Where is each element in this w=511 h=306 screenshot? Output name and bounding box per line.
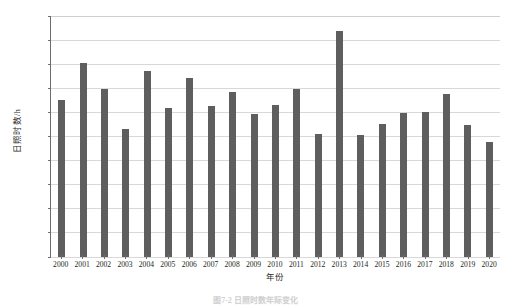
bar-slot (201, 16, 222, 257)
x-tick-label: 2008 (221, 259, 242, 271)
x-tick-slot: 2010 (264, 259, 285, 273)
bar[interactable] (315, 134, 322, 257)
x-tick-slot: 2005 (157, 259, 178, 273)
bar[interactable] (464, 125, 471, 257)
x-tick-slot: 2009 (243, 259, 264, 273)
x-tick-slot: 2020 (478, 259, 499, 273)
x-tick-label: 2003 (114, 259, 135, 271)
bar-slot (51, 16, 72, 257)
x-tick-mark (125, 255, 126, 259)
bar-slot (115, 16, 136, 257)
x-tick-slot: 2002 (93, 259, 114, 273)
x-tick-label: 2015 (371, 259, 392, 271)
x-tick-label: 2019 (457, 259, 478, 271)
x-tick-mark (318, 255, 319, 259)
x-tick-label: 2013 (328, 259, 349, 271)
x-tick-mark (82, 255, 83, 259)
bar[interactable] (486, 142, 493, 257)
x-tick-slot: 2011 (286, 259, 307, 273)
bar[interactable] (443, 94, 450, 257)
bar[interactable] (186, 78, 193, 257)
bar-slot (179, 16, 200, 257)
x-tick-mark (275, 255, 276, 259)
x-tick-label: 2012 (307, 259, 328, 271)
bar-slot (222, 16, 243, 257)
bar[interactable] (58, 100, 65, 257)
figure-caption: 图7-2 日照时数年际变化 (0, 296, 511, 306)
bar-slot (393, 16, 414, 257)
bar[interactable] (422, 112, 429, 257)
x-tick-mark (296, 255, 297, 259)
x-tick-slot: 2018 (436, 259, 457, 273)
bar-slot (414, 16, 435, 257)
x-tick-label: 2000 (50, 259, 71, 271)
bar-slot (479, 16, 500, 257)
x-tick-slot: 2001 (71, 259, 92, 273)
x-tick-label: 2017 (414, 259, 435, 271)
x-tick-slot: 2012 (307, 259, 328, 273)
bar-slot (137, 16, 158, 257)
x-tick-mark (425, 255, 426, 259)
bar[interactable] (379, 124, 386, 257)
x-tick-label: 2001 (71, 259, 92, 271)
x-tick-mark (104, 255, 105, 259)
bar[interactable] (122, 129, 129, 257)
x-tick-mark (361, 255, 362, 259)
bar-slot (350, 16, 371, 257)
x-axis-tick-labels: 2000200120022003200420052006200720082009… (50, 259, 500, 273)
bar[interactable] (229, 92, 236, 257)
x-tick-slot: 2015 (371, 259, 392, 273)
bar-series (51, 16, 500, 257)
bar-slot (158, 16, 179, 257)
bar[interactable] (144, 71, 151, 257)
bar-slot (308, 16, 329, 257)
x-tick-mark (446, 255, 447, 259)
bar-slot (286, 16, 307, 257)
y-axis-title: 日照时数/h (12, 86, 22, 176)
x-tick-label: 2004 (136, 259, 157, 271)
bar-slot (372, 16, 393, 257)
x-tick-label: 2006 (179, 259, 200, 271)
x-tick-label: 2018 (436, 259, 457, 271)
x-tick-label: 2020 (478, 259, 499, 271)
bar[interactable] (251, 114, 258, 257)
bar[interactable] (165, 108, 172, 257)
plot-area: 1000110012001300140015001600170018001900… (50, 16, 500, 258)
bar-slot (94, 16, 115, 257)
x-tick-slot: 2016 (393, 259, 414, 273)
x-tick-mark (382, 255, 383, 259)
x-tick-label: 2014 (350, 259, 371, 271)
x-tick-label: 2011 (286, 259, 307, 271)
x-tick-label: 2009 (243, 259, 264, 271)
x-tick-label: 2010 (264, 259, 285, 271)
x-tick-mark (168, 255, 169, 259)
bar-slot (436, 16, 457, 257)
bar[interactable] (208, 106, 215, 257)
bar[interactable] (400, 113, 407, 257)
bar[interactable] (357, 135, 364, 257)
x-tick-mark (211, 255, 212, 259)
bar[interactable] (101, 89, 108, 257)
bar[interactable] (336, 31, 343, 257)
bar-slot (457, 16, 478, 257)
x-tick-mark (468, 255, 469, 259)
x-tick-mark (254, 255, 255, 259)
bar-slot (72, 16, 93, 257)
x-tick-label: 2007 (200, 259, 221, 271)
bar[interactable] (293, 89, 300, 257)
bar-slot (243, 16, 264, 257)
x-tick-mark (61, 255, 62, 259)
x-tick-mark (232, 255, 233, 259)
x-tick-label: 2016 (393, 259, 414, 271)
x-tick-mark (339, 255, 340, 259)
bar[interactable] (80, 63, 87, 257)
x-tick-label: 2005 (157, 259, 178, 271)
bar[interactable] (272, 105, 279, 257)
x-tick-slot: 2008 (221, 259, 242, 273)
x-tick-slot: 2007 (200, 259, 221, 273)
x-tick-mark (189, 255, 190, 259)
x-axis-title: 年份 (50, 272, 500, 283)
bar-slot (329, 16, 350, 257)
x-tick-slot: 2003 (114, 259, 135, 273)
